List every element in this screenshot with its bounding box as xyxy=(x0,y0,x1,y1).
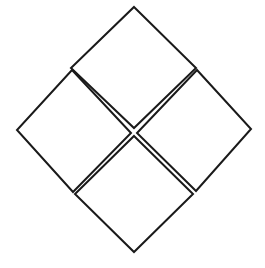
four-diamonds-figure xyxy=(0,0,265,268)
figure-canvas xyxy=(0,0,265,268)
